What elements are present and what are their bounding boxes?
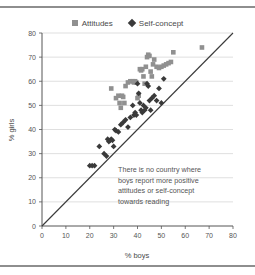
data-point: [159, 100, 165, 106]
annotation-line: There is no country where: [118, 165, 201, 174]
x-tick-label-70: 70: [205, 232, 213, 239]
x-tick-label-80: 80: [229, 232, 237, 239]
x-tick-label-10: 10: [62, 232, 70, 239]
data-point: [152, 57, 157, 62]
x-tick-label-0: 0: [40, 232, 44, 239]
annotation-line: attitudes or self-concept: [118, 186, 194, 195]
y-tick-label-60: 60: [28, 78, 36, 85]
data-point: [171, 50, 176, 55]
data-point: [130, 103, 136, 109]
chart-annotation: There is no country whereboys report mor…: [118, 165, 201, 206]
data-point: [169, 60, 174, 65]
y-tick-label-70: 70: [28, 54, 36, 61]
y-tick-label-50: 50: [28, 102, 36, 109]
data-point: [122, 101, 127, 106]
data-point: [161, 76, 167, 82]
scatter-plot: 0102030405060708001020304050607080 There…: [0, 0, 255, 275]
x-tick-label-40: 40: [134, 232, 142, 239]
y-axis-label: % girls: [7, 119, 16, 142]
x-tick-label-50: 50: [157, 232, 165, 239]
data-point: [125, 124, 131, 130]
x-axis-label: % boys: [125, 251, 150, 260]
data-point: [111, 144, 117, 150]
y-tick-label-10: 10: [28, 198, 36, 205]
x-tick-label-30: 30: [110, 232, 118, 239]
data-point: [121, 95, 126, 100]
data-point: [117, 101, 122, 106]
data-point: [150, 74, 155, 79]
data-point: [109, 86, 114, 91]
series-self-concept-points: [87, 76, 167, 169]
y-tick-label-0: 0: [32, 223, 36, 230]
data-point: [147, 54, 152, 59]
data-point: [96, 144, 102, 150]
data-point: [200, 45, 205, 50]
data-point: [154, 98, 160, 104]
chart-figure: Attitudes Self-concept 01020304050607080…: [0, 0, 255, 275]
data-point: [148, 107, 154, 113]
y-tick-label-80: 80: [28, 30, 36, 37]
y-tick-label-40: 40: [28, 126, 36, 133]
y-tick-label-30: 30: [28, 150, 36, 157]
x-tick-label-20: 20: [86, 232, 94, 239]
annotation-line: boys report more positive: [118, 176, 199, 185]
data-point: [118, 105, 123, 110]
y-tick-label-20: 20: [28, 174, 36, 181]
data-point: [148, 69, 153, 74]
data-point: [156, 86, 162, 92]
data-point: [141, 74, 146, 79]
data-point: [144, 64, 149, 69]
annotation-line: towards reading: [118, 197, 169, 206]
x-tick-label-60: 60: [181, 232, 189, 239]
